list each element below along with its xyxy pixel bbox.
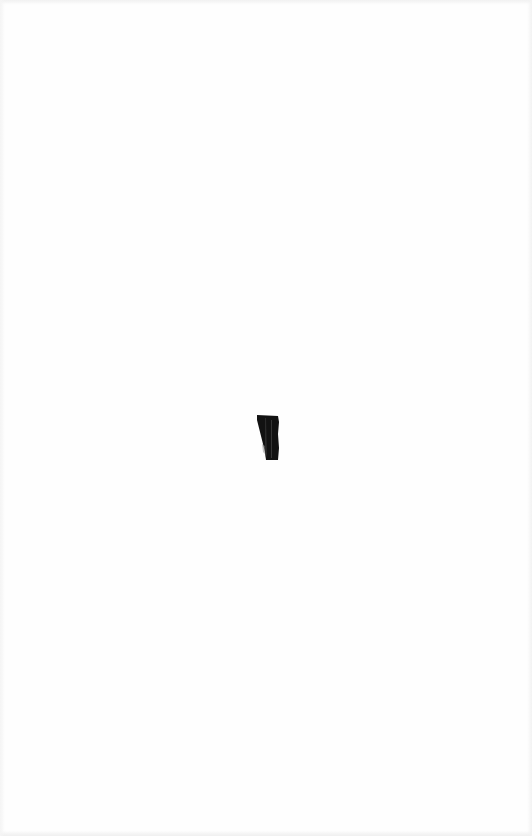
page-edge-bottom <box>0 831 532 836</box>
page-edge-left <box>0 0 4 836</box>
page-edge-top <box>0 0 532 4</box>
ink-mark <box>256 414 280 462</box>
page-edge-right <box>528 0 532 836</box>
scanned-page <box>0 0 532 836</box>
